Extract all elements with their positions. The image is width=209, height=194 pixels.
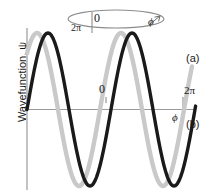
wavefunction-figure: Wavefunction, ψ 0 2π ϕ 0 2π ϕ (a) (b)	[0, 0, 209, 194]
axis-label-zero: 0	[99, 83, 105, 95]
ring-label-twopi: 2π	[71, 23, 81, 33]
ring-label-phi: ϕ	[148, 16, 154, 27]
curve-a-label: (a)	[186, 53, 199, 64]
plot-canvas	[0, 0, 209, 194]
curve-b-label: (b)	[186, 119, 199, 130]
axis-label-phi: ϕ	[172, 112, 178, 123]
ring-label-zero: 0	[94, 12, 100, 24]
axis-label-twopi: 2π	[184, 85, 195, 96]
